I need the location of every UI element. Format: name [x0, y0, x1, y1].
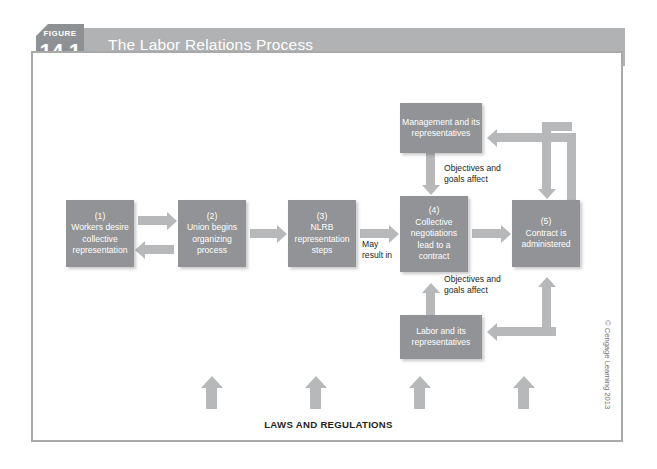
- labor-box: Labor and its representatives: [400, 315, 482, 359]
- foundation-arrow-3: [414, 387, 425, 409]
- figure-label: FIGURE: [36, 29, 84, 38]
- process-box-1-text: Workers desire collective representation: [71, 222, 129, 255]
- edge-label-objectives-bottom: Objectives andgoals affect: [444, 274, 501, 296]
- arrow-to-labor: [496, 327, 556, 336]
- arrow-to-management: [496, 133, 576, 142]
- foundation-arrow-4: [518, 387, 529, 409]
- process-box-5-text: Contract is administered: [521, 228, 570, 249]
- arrow-box2-to-box1: [144, 245, 174, 254]
- process-box-3: (3) NLRB representation steps: [288, 200, 356, 267]
- process-box-2-number: (2): [180, 211, 244, 222]
- process-box-3-number: (3): [290, 211, 354, 222]
- edge-label-objectives-top: Objectives andgoals affect: [444, 163, 501, 185]
- arrow-labor-to-box4: [426, 292, 435, 315]
- connector-top-right-elbow: [542, 122, 572, 131]
- foundation-label: LAWS AND REGULATIONS: [0, 419, 657, 430]
- arrow-management-to-box4: [426, 153, 435, 186]
- process-box-5-number: (5): [514, 216, 578, 227]
- foundation-arrow-1: [206, 387, 217, 409]
- process-box-5: (5) Contract is administered: [512, 200, 580, 267]
- foundation-arrow-2: [310, 387, 321, 409]
- arrow-into-box5-top: [542, 122, 551, 190]
- arrow-box3-to-box4: [360, 229, 390, 238]
- management-box: Management and its representatives: [400, 103, 482, 153]
- edge-label-may-result-in: May result in: [362, 239, 396, 261]
- process-box-4-text: Collective negotiations lead to a contra…: [411, 217, 457, 261]
- process-box-2: (2) Union begins organizing process: [178, 200, 246, 267]
- process-box-1-number: (1): [68, 211, 132, 222]
- process-box-4-number: (4): [402, 205, 466, 216]
- process-box-3-text: NLRB representation steps: [295, 222, 350, 255]
- connector-box5-to-management-vertical: [567, 133, 576, 201]
- arrow-box4-to-box5: [472, 229, 502, 238]
- arrow-box1-to-box2: [138, 216, 168, 225]
- process-box-4: (4) Collective negotiations lead to a co…: [400, 196, 468, 272]
- management-box-text: Management and its representatives: [402, 117, 480, 138]
- copyright-credit: © Cengage Learning 2013: [603, 320, 612, 409]
- process-box-1: (1) Workers desire collective representa…: [66, 200, 134, 267]
- figure-page: The Labor Relations Process FIGURE 14.1 …: [0, 0, 657, 469]
- labor-box-text: Labor and its representatives: [412, 326, 471, 347]
- arrow-box2-to-box3: [250, 229, 278, 238]
- process-box-2-text: Union begins organizing process: [187, 222, 237, 255]
